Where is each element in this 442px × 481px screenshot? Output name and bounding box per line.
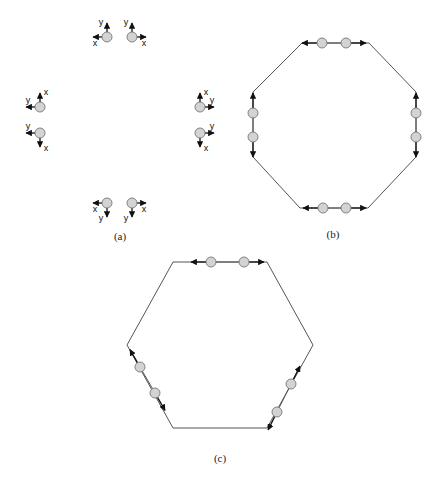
y-axis-label: y bbox=[124, 17, 129, 27]
x-axis-label: x bbox=[44, 143, 49, 153]
panel-b-octagon bbox=[248, 38, 421, 213]
local-frame-node: xy bbox=[93, 198, 112, 223]
direction-arrow-icon bbox=[157, 397, 164, 410]
x-axis-label: x bbox=[142, 204, 147, 214]
node-circle bbox=[411, 132, 421, 142]
node-circle bbox=[286, 379, 296, 389]
x-axis-label: x bbox=[44, 87, 49, 97]
node-circle bbox=[195, 128, 205, 138]
local-frame-node: xy bbox=[26, 87, 49, 112]
x-axis-label: x bbox=[142, 38, 147, 48]
node-circle bbox=[102, 32, 112, 42]
direction-arrow-icon bbox=[293, 366, 300, 379]
local-frame-node: xy bbox=[195, 121, 215, 153]
node-circle bbox=[150, 388, 160, 398]
polygon-edge bbox=[368, 157, 416, 208]
x-axis-label: x bbox=[93, 38, 98, 48]
panel-c-hexagon bbox=[127, 257, 313, 430]
x-axis-label: x bbox=[204, 87, 209, 97]
figure-canvas: xyxyxyxyxyxyxyxy (a) (b) (c) bbox=[0, 0, 442, 481]
caption-c: (c) bbox=[214, 452, 227, 465]
y-axis-label: y bbox=[26, 95, 31, 105]
direction-arrow-icon bbox=[268, 416, 275, 429]
y-axis-label: y bbox=[210, 95, 215, 105]
y-axis-label: y bbox=[124, 213, 129, 223]
node-circle bbox=[127, 32, 137, 42]
y-axis-label: y bbox=[210, 121, 215, 131]
x-axis-label: x bbox=[93, 204, 98, 214]
local-frame-node: xy bbox=[195, 87, 215, 112]
node-circle bbox=[248, 132, 258, 142]
caption-b: (b) bbox=[327, 228, 340, 241]
y-axis-label: y bbox=[99, 17, 104, 27]
node-circle bbox=[248, 108, 258, 118]
local-frame-node: xy bbox=[124, 198, 147, 223]
polygon-edge bbox=[253, 157, 300, 208]
node-circle bbox=[127, 198, 137, 208]
node-circle bbox=[35, 102, 45, 112]
y-axis-label: y bbox=[26, 121, 31, 131]
polygon-edge bbox=[127, 262, 173, 345]
local-frame-node: xy bbox=[124, 17, 147, 48]
polygon-edge bbox=[253, 43, 302, 92]
panel-a-isolated-nodes: xyxyxyxyxyxyxyxy bbox=[26, 17, 215, 223]
node-circle bbox=[239, 257, 249, 267]
local-frame-node: xy bbox=[26, 121, 49, 153]
node-circle bbox=[272, 407, 282, 417]
local-frame-node: xy bbox=[93, 17, 112, 48]
node-circle bbox=[102, 198, 112, 208]
node-circle bbox=[341, 203, 351, 213]
node-circle bbox=[318, 203, 328, 213]
node-circle bbox=[206, 257, 216, 267]
direction-arrow-icon bbox=[130, 350, 137, 363]
node-circle bbox=[35, 128, 45, 138]
node-circle bbox=[411, 108, 421, 118]
node-circle bbox=[317, 38, 327, 48]
y-axis-label: y bbox=[99, 213, 104, 223]
node-circle bbox=[195, 102, 205, 112]
caption-a: (a) bbox=[114, 230, 127, 243]
x-axis-label: x bbox=[204, 143, 209, 153]
polygon-edge bbox=[267, 262, 313, 345]
node-circle bbox=[135, 362, 145, 372]
node-circle bbox=[341, 38, 351, 48]
polygon-edge bbox=[369, 43, 416, 92]
